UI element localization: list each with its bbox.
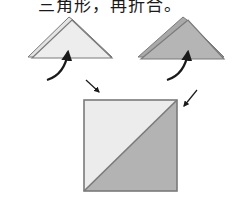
corner-pointer-arrow-icon xyxy=(86,80,99,92)
corner-pointer-arrow-icon xyxy=(184,90,197,106)
light-triangle xyxy=(28,17,112,58)
square-result xyxy=(84,100,177,191)
folding-diagram xyxy=(0,0,236,199)
dark-triangle xyxy=(138,17,224,59)
